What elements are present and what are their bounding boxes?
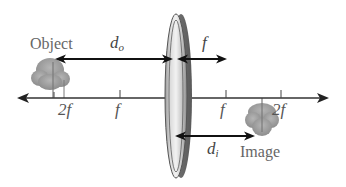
i-subscript: i [216, 147, 219, 159]
object-distance-arrow [55, 55, 173, 64]
object-distance-label: do [110, 33, 124, 53]
image-distance-label: di [207, 139, 219, 159]
tick-label-f-left: f [115, 100, 120, 120]
converging-lens [165, 14, 192, 178]
image-label: Image [240, 143, 280, 161]
lens-diagram [0, 0, 346, 187]
tick-label-2f-right: 2f [272, 100, 285, 120]
tick-label-2f-left: 2f [58, 100, 71, 120]
object-label: Object [30, 35, 73, 53]
o-subscript: o [119, 41, 125, 53]
focal-length-label: f [202, 33, 207, 53]
d-symbol: d [207, 139, 216, 158]
tick-label-f-right: f [220, 100, 225, 120]
d-symbol: d [110, 33, 119, 52]
object-tree-icon [31, 58, 70, 98]
